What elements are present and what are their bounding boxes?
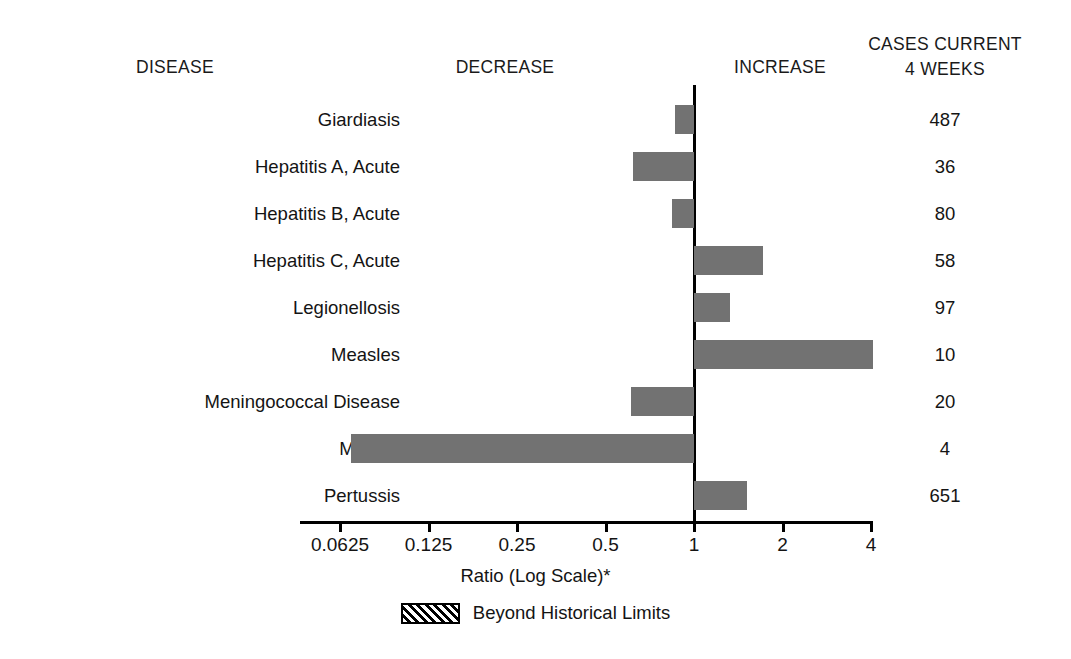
disease-label: Mumps	[0, 425, 400, 472]
x-axis-title: Ratio (Log Scale)*	[0, 565, 1071, 587]
column-header-increase: INCREASE	[700, 57, 860, 78]
cases-value: 36	[860, 143, 1030, 190]
bar-legionellosis	[694, 293, 730, 322]
cases-value: 10	[860, 331, 1030, 378]
column-header-decrease: DECREASE	[395, 57, 615, 78]
table-row: Measles10	[0, 331, 1071, 378]
disease-label: Pertussis	[0, 472, 400, 519]
disease-label: Giardiasis	[0, 96, 400, 143]
bar-giardiasis	[675, 105, 694, 134]
cases-value: 97	[860, 284, 1030, 331]
table-row: Hepatitis A, Acute36	[0, 143, 1071, 190]
column-header-cases-line2: 4 WEEKS	[840, 57, 1050, 82]
cases-value: 20	[860, 378, 1030, 425]
x-axis-tick-label: 0.125	[405, 534, 453, 556]
x-axis-tick	[870, 521, 873, 532]
column-header-disease: DISEASE	[60, 57, 290, 78]
x-axis-tick-label: 0.0625	[311, 534, 369, 556]
chart-page: DISEASE DECREASE INCREASE CASES CURRENT …	[0, 0, 1071, 659]
cases-value: 4	[860, 425, 1030, 472]
x-axis-tick	[516, 521, 519, 532]
legend-label: Beyond Historical Limits	[473, 602, 670, 624]
bar-meningococcal-disease	[631, 387, 694, 416]
cases-value: 651	[860, 472, 1030, 519]
x-axis-tick-label: 4	[866, 534, 877, 556]
disease-label: Hepatitis A, Acute	[0, 143, 400, 190]
disease-label: Hepatitis C, Acute	[0, 237, 400, 284]
cases-value: 58	[860, 237, 1030, 284]
x-axis-tick-label: 0.5	[592, 534, 618, 556]
cases-value: 487	[860, 96, 1030, 143]
x-axis-tick	[605, 521, 608, 532]
disease-label: Measles	[0, 331, 400, 378]
table-row: Legionellosis97	[0, 284, 1071, 331]
x-axis-tick	[428, 521, 431, 532]
x-axis-tick	[782, 521, 785, 532]
table-row: Mumps4	[0, 425, 1071, 472]
x-axis-tick-label: 2	[777, 534, 788, 556]
table-row: Pertussis651	[0, 472, 1071, 519]
bar-mumps	[351, 434, 694, 463]
bar-hepatitis-b-acute	[672, 199, 694, 228]
column-header-cases-line1: CASES CURRENT	[840, 32, 1050, 57]
disease-label: Hepatitis B, Acute	[0, 190, 400, 237]
legend-swatch-beyond-historical-limits	[401, 603, 460, 624]
plot-area: Giardiasis487Hepatitis A, Acute36Hepatit…	[0, 85, 1071, 520]
column-header-cases: CASES CURRENT 4 WEEKS	[840, 32, 1050, 82]
disease-label: Legionellosis	[0, 284, 400, 331]
x-axis-tick-label: 0.25	[499, 534, 536, 556]
table-row: Giardiasis487	[0, 96, 1071, 143]
bar-hepatitis-a-acute	[633, 152, 694, 181]
cases-value: 80	[860, 190, 1030, 237]
x-axis-tick-label: 1	[689, 534, 700, 556]
x-axis-tick	[339, 521, 342, 532]
table-row: Meningococcal Disease20	[0, 378, 1071, 425]
table-row: Hepatitis C, Acute58	[0, 237, 1071, 284]
bar-pertussis	[694, 481, 747, 510]
disease-label: Meningococcal Disease	[0, 378, 400, 425]
legend: Beyond Historical Limits	[0, 602, 1071, 624]
table-row: Hepatitis B, Acute80	[0, 190, 1071, 237]
bar-hepatitis-c-acute	[694, 246, 763, 275]
x-axis-tick	[693, 521, 696, 532]
x-axis-line	[300, 521, 871, 524]
bar-measles	[694, 340, 873, 369]
